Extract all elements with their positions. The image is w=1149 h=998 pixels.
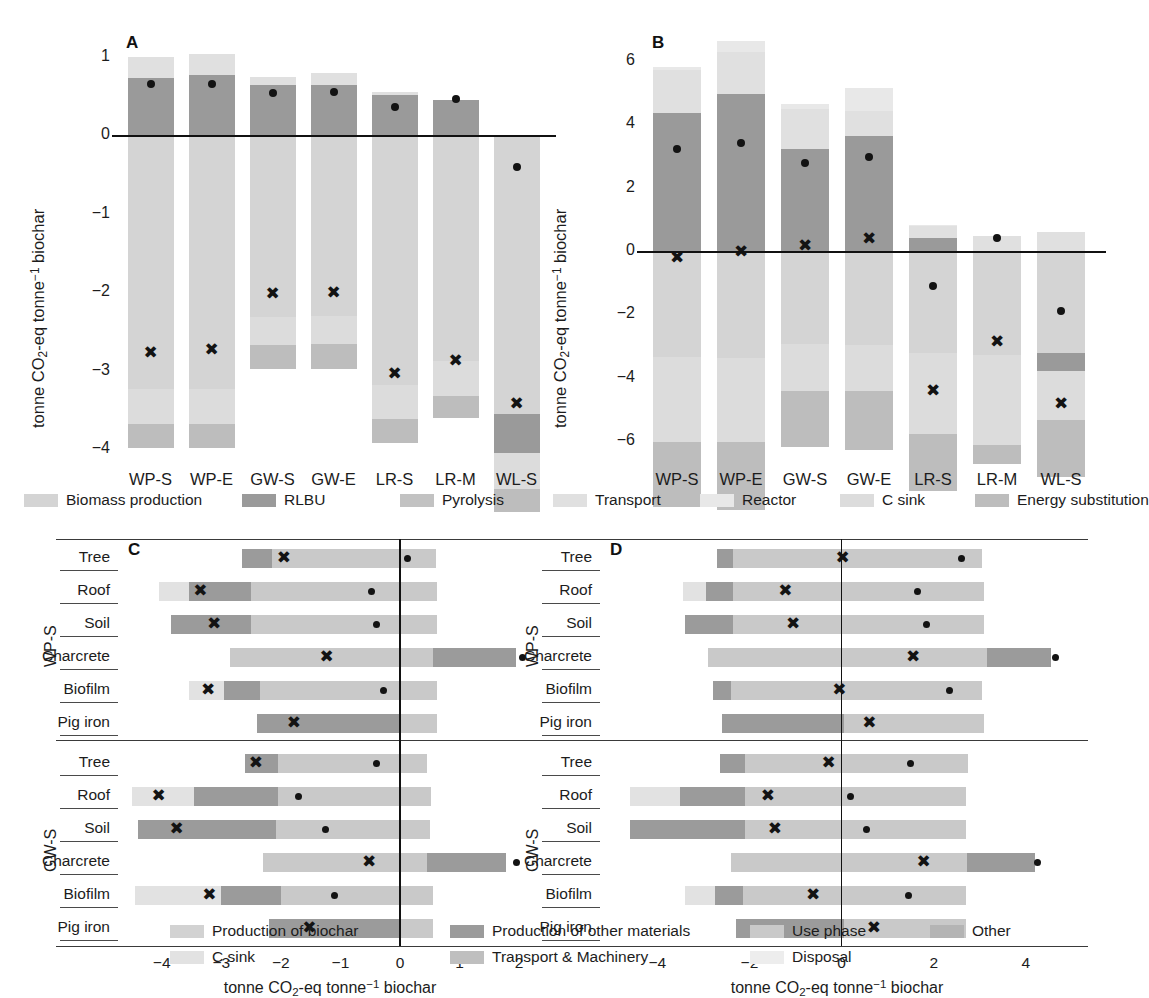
bar-segment [708, 648, 987, 667]
legend-label: Use phase [792, 922, 866, 940]
bar-segment [781, 391, 829, 446]
bar-segment [311, 344, 357, 368]
bar-segment [263, 853, 427, 872]
row-label-rule [542, 808, 600, 809]
net-total-cross-marker [319, 648, 335, 664]
median-dot-marker [269, 89, 277, 97]
bar-segment [653, 70, 701, 113]
row-label: Pig iron [10, 713, 110, 731]
net-total-cross-marker [925, 382, 941, 398]
y-axis-tick: 0 [62, 125, 110, 143]
bar-segment [720, 754, 745, 773]
net-total-cross-marker [265, 285, 281, 301]
bar-segment [272, 549, 436, 568]
median-dot-marker [923, 621, 930, 628]
median-dot-marker [322, 826, 329, 833]
bar-segment [1037, 252, 1085, 353]
row-label: Tree [492, 753, 592, 771]
net-total-cross-marker [861, 714, 877, 730]
x-axis-category-label: WL-S [1017, 470, 1105, 489]
legend-label: Energy substitution [1017, 491, 1149, 509]
bar-segment [372, 95, 418, 137]
zero-line [112, 135, 556, 137]
row-label: Soil [10, 614, 110, 632]
y-axis-tick: −3 [62, 361, 110, 379]
bar-segment [781, 344, 829, 392]
net-total-cross-marker [151, 787, 167, 803]
row-label: Roof [492, 581, 592, 599]
bar-segment [128, 57, 174, 78]
y-axis-tick: −4 [587, 368, 635, 386]
row-label: Roof [492, 786, 592, 804]
median-dot-marker [905, 892, 912, 899]
row-label: Soil [492, 614, 592, 632]
legend-swatch [930, 925, 964, 938]
bar-segment [715, 886, 743, 905]
row-label: Charcrete [10, 647, 110, 665]
median-dot-marker [847, 793, 854, 800]
row-label-rule [60, 636, 118, 637]
bar-segment [281, 886, 433, 905]
net-total-cross-marker [206, 615, 222, 631]
bar-segment [1037, 232, 1085, 252]
median-dot-marker [404, 555, 411, 562]
bar-segment [781, 252, 829, 344]
x-axis-label: tonne CO2-eq tonne−1 biochar [160, 978, 500, 998]
bar-segment [138, 820, 276, 839]
legend-swatch [700, 494, 734, 507]
row-label-rule [60, 940, 118, 941]
net-total-cross-marker [989, 333, 1005, 349]
bar-segment [250, 345, 296, 369]
median-dot-marker [373, 621, 380, 628]
bar-segment [717, 41, 765, 52]
y-axis-tick: −1 [62, 204, 110, 222]
y-axis-tick: −2 [587, 304, 635, 322]
legend-item: Production of biochar [170, 922, 358, 940]
median-dot-marker [295, 793, 302, 800]
y-axis-tick: −6 [587, 431, 635, 449]
bar-segment [189, 389, 235, 424]
net-total-cross-marker [821, 754, 837, 770]
median-dot-marker [673, 145, 681, 153]
panel-letter: D [610, 540, 622, 560]
bar-segment [242, 549, 272, 568]
net-total-cross-marker [143, 344, 159, 360]
bar-segment [276, 820, 430, 839]
bar-segment [189, 54, 235, 75]
bar-segment [128, 424, 174, 448]
row-label-rule [542, 775, 600, 776]
bar-segment [717, 549, 733, 568]
row-label: Roof [10, 581, 110, 599]
net-total-cross-marker [286, 714, 302, 730]
legend-item: Use phase [750, 922, 866, 940]
median-dot-marker [907, 760, 914, 767]
bar-segment [260, 681, 437, 700]
zero-line [841, 539, 843, 946]
bar-segment [683, 582, 706, 601]
x-axis-label: tonne CO2-eq tonne−1 biochar [667, 978, 1007, 998]
row-label-rule [542, 907, 600, 908]
net-total-cross-marker [1053, 395, 1069, 411]
legend-item: C sink [840, 491, 925, 509]
bar-segment [733, 615, 984, 634]
y-axis-tick: 0 [587, 241, 635, 259]
bar-segment [845, 391, 893, 450]
row-label-rule [60, 907, 118, 908]
legend-item: Biomass production [24, 491, 202, 509]
row-label: Soil [492, 819, 592, 837]
bar-segment [717, 52, 765, 93]
median-dot-marker [368, 588, 375, 595]
median-dot-marker [737, 139, 745, 147]
row-label-rule [60, 874, 118, 875]
net-total-cross-marker [361, 853, 377, 869]
net-total-cross-marker [200, 681, 216, 697]
zero-line [399, 539, 401, 946]
median-dot-marker [1034, 859, 1041, 866]
bar-segment [745, 754, 968, 773]
bar-segment [909, 238, 957, 252]
bar-segment [433, 100, 479, 136]
net-total-cross-marker [831, 681, 847, 697]
bar-segment [909, 226, 957, 238]
row-label-rule [60, 702, 118, 703]
y-axis-tick: −4 [62, 439, 110, 457]
